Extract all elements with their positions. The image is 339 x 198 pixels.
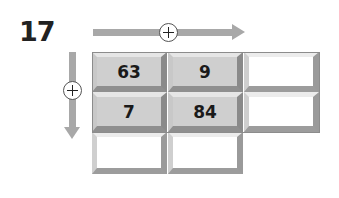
cell-r2-c1: 7 bbox=[92, 92, 167, 132]
cell-r1-c1: 63 bbox=[92, 52, 167, 92]
plus-circle-icon bbox=[63, 81, 82, 100]
answer-cell-r2-total[interactable] bbox=[244, 92, 319, 132]
question-number: 17 bbox=[19, 16, 55, 47]
arrow-down-icon bbox=[64, 127, 80, 139]
answer-cell-r1-total[interactable] bbox=[244, 52, 319, 92]
cell-r1-c2: 9 bbox=[168, 52, 243, 92]
arrow-right-icon bbox=[232, 24, 245, 40]
answer-cell-c2-total[interactable] bbox=[168, 132, 243, 174]
answer-cell-c1-total[interactable] bbox=[92, 132, 167, 174]
plus-circle-icon bbox=[159, 23, 178, 42]
cell-r2-c2: 84 bbox=[168, 92, 243, 132]
